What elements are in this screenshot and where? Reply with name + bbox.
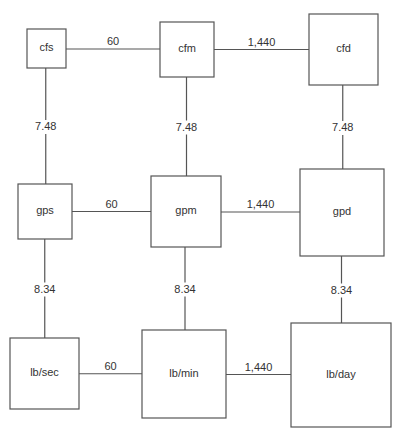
unit-box-cfs: cfs xyxy=(27,29,66,68)
edge-gpd-lbday: 8.34 xyxy=(328,256,356,323)
edge-gpm-gpd: 1,440 xyxy=(221,198,300,212)
conversion-factor-label: 60 xyxy=(104,360,116,372)
unit-box-cfm: cfm xyxy=(160,22,214,77)
edge-lbmin-lbday: 1,440 xyxy=(226,361,291,375)
conversion-factor-label: 7.48 xyxy=(35,120,56,132)
unit-box-lbsec: lb/sec xyxy=(10,338,79,409)
conversion-factor-label: 8.34 xyxy=(34,283,55,295)
edge-gpm-lbmin: 8.34 xyxy=(171,247,199,330)
unit-label: lb/sec xyxy=(30,366,59,378)
unit-box-gpd: gpd xyxy=(300,169,384,256)
unit-label: gps xyxy=(36,204,54,216)
conversion-factor-label: 7.48 xyxy=(332,121,353,133)
edge-cfm-gpm: 7.48 xyxy=(173,77,201,176)
edge-lbsec-lbmin: 60 xyxy=(79,360,142,374)
conversion-factor-label: 1,440 xyxy=(247,198,275,210)
edge-cfs-cfm: 60 xyxy=(66,35,160,49)
unit-label: gpm xyxy=(175,204,196,216)
unit-label: lb/min xyxy=(169,367,198,379)
edge-gps-lbsec: 8.34 xyxy=(31,239,59,338)
nodes-layer: cfscfmcfdgpsgpmgpdlb/seclb/minlb/day xyxy=(10,14,391,427)
unit-box-lbday: lb/day xyxy=(291,323,391,427)
unit-box-gpm: gpm xyxy=(151,176,221,247)
unit-label: gpd xyxy=(333,205,351,217)
edge-gps-gpm: 60 xyxy=(72,198,151,212)
unit-label: cfd xyxy=(336,42,351,54)
unit-box-cfd: cfd xyxy=(309,14,378,85)
unit-box-lbmin: lb/min xyxy=(142,330,226,418)
conversion-factor-label: 1,440 xyxy=(245,361,273,373)
conversion-factor-label: 60 xyxy=(107,35,119,47)
edge-cfd-gpd: 7.48 xyxy=(329,85,357,169)
edge-cfs-gps: 7.48 xyxy=(32,68,60,184)
conversion-factor-label: 60 xyxy=(105,198,117,210)
unit-box-gps: gps xyxy=(18,184,72,239)
conversion-factor-label: 8.34 xyxy=(174,283,195,295)
unit-label: cfm xyxy=(178,42,196,54)
unit-label: cfs xyxy=(39,41,54,53)
unit-label: lb/day xyxy=(326,368,356,380)
conversion-diagram: 601,440601,440601,4407.487.487.488.348.3… xyxy=(0,0,404,440)
edge-cfm-cfd: 1,440 xyxy=(214,36,309,50)
conversion-factor-label: 1,440 xyxy=(248,36,276,48)
conversion-factor-label: 7.48 xyxy=(176,121,197,133)
conversion-factor-label: 8.34 xyxy=(331,284,352,296)
